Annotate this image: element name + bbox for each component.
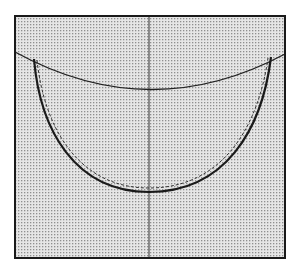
pattern-diagram	[0, 0, 296, 269]
